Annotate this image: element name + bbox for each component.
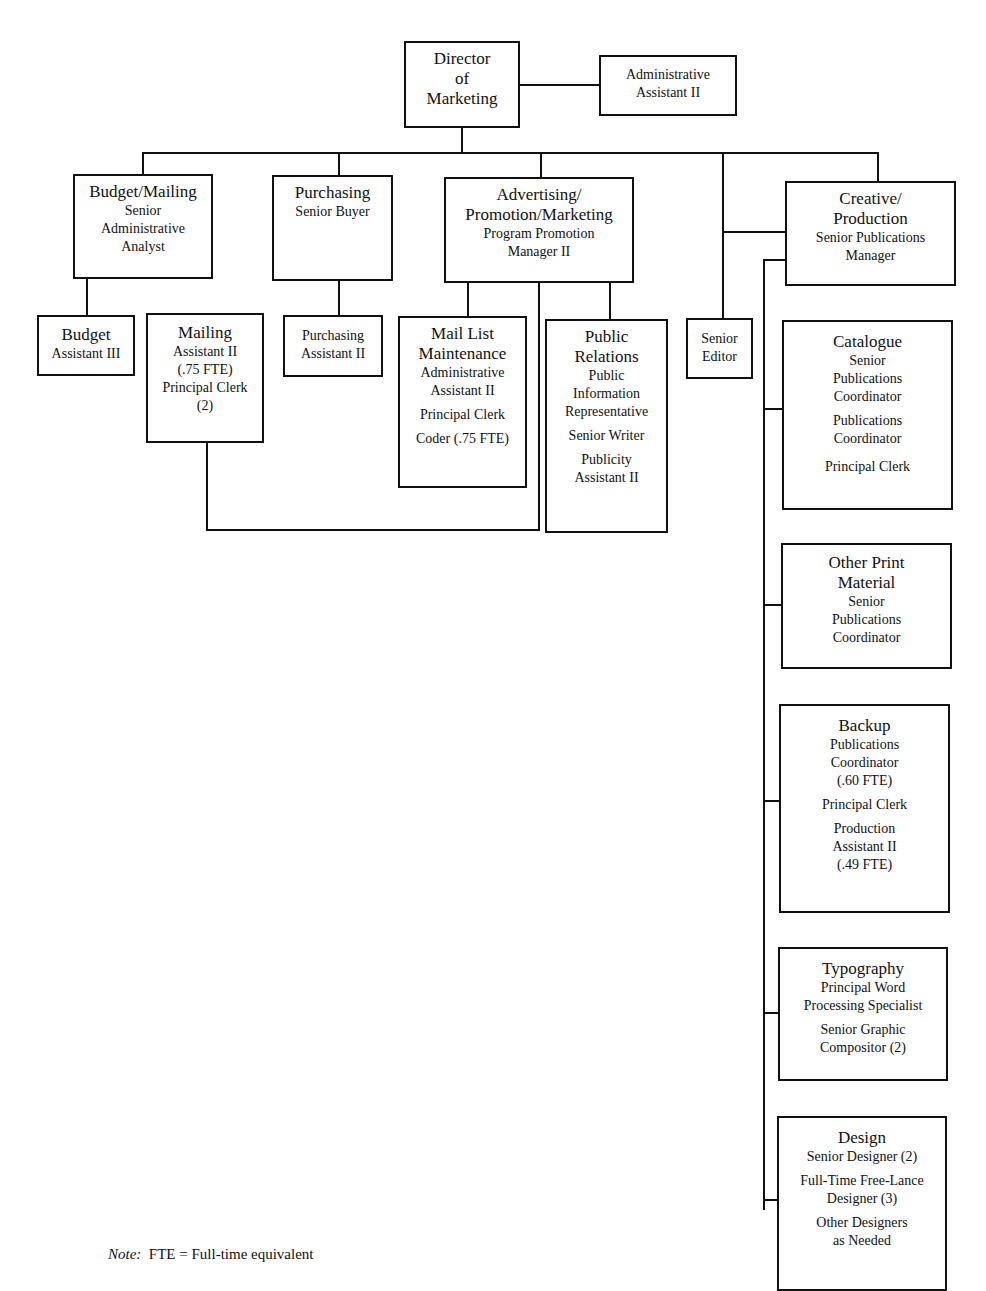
box-line: Senior Buyer [295, 203, 369, 221]
box-title: Maintenance [419, 344, 507, 364]
connector [763, 1199, 778, 1201]
box-title: Typography [822, 959, 904, 979]
box-title: Relations [574, 347, 638, 367]
box-line: Assistant II [301, 345, 365, 363]
box-line: Analyst [121, 238, 165, 256]
box-title: Design [838, 1128, 886, 1148]
typography-box: Typography Principal Word Processing Spe… [778, 947, 948, 1081]
box-line: Assistant II [430, 382, 494, 400]
box-line: Information [573, 385, 640, 403]
box-line: Senior [848, 593, 885, 611]
box-line: Publications [833, 370, 902, 388]
box-title: Other Print [828, 553, 904, 573]
box-line: Coordinator [831, 754, 899, 772]
budget-mailing-box: Budget/Mailing Senior Administrative Ana… [73, 174, 213, 279]
connector [609, 282, 611, 319]
box-line: Assistant II [173, 343, 237, 361]
box-title: Production [833, 209, 908, 229]
box-line: Senior Designer (2) [807, 1148, 917, 1166]
connector [142, 152, 879, 154]
box-line: Principal Clerk [420, 406, 505, 424]
box-line: Processing Specialist [804, 997, 923, 1015]
connector [86, 278, 88, 315]
box-line: Coordinator [834, 388, 902, 406]
box-line: Publications [830, 736, 899, 754]
connector [461, 127, 463, 154]
box-line: Manager [846, 247, 896, 265]
connector [519, 84, 599, 86]
box-line: Principal Word [821, 979, 906, 997]
box-title: Mailing [178, 323, 232, 343]
box-title: Creative/ [839, 189, 901, 209]
connector [763, 800, 780, 802]
connector [877, 152, 879, 181]
box-title: Budget/Mailing [89, 182, 197, 202]
connector [206, 443, 208, 531]
connector [722, 152, 724, 318]
mailing-box: Mailing Assistant II (.75 FTE) Principal… [146, 313, 264, 443]
box-line: Publications [832, 611, 901, 629]
box-line: Compositor (2) [820, 1039, 906, 1057]
box-line: Manager II [508, 243, 571, 261]
box-line: Editor [702, 348, 737, 366]
connector [763, 259, 765, 1210]
box-line: Assistant III [52, 345, 121, 363]
catalogue-box: Catalogue Senior Publications Coordinato… [782, 320, 953, 510]
box-line: Full-Time Free-Lance [800, 1172, 924, 1190]
box-title: of [455, 69, 469, 89]
box-line: Assistant II [636, 84, 700, 102]
mail-list-maintenance-box: Mail List Maintenance Administrative Ass… [398, 316, 527, 488]
connector [763, 408, 782, 410]
design-box: Design Senior Designer (2) Full-Time Fre… [777, 1116, 947, 1291]
box-title: Promotion/Marketing [465, 205, 612, 225]
box-line: Publications [833, 412, 902, 430]
box-line: as Needed [833, 1232, 891, 1250]
box-line: Principal Clerk [162, 379, 247, 397]
box-line: Administrative [101, 220, 185, 238]
advertising-box: Advertising/ Promotion/Marketing Program… [444, 177, 634, 283]
creative-production-box: Creative/ Production Senior Publications… [785, 181, 956, 286]
box-line: Senior Writer [569, 427, 645, 445]
connector [467, 282, 469, 316]
box-line: Senior [125, 202, 162, 220]
box-line: Purchasing [302, 327, 364, 345]
box-line: Coder (.75 FTE) [416, 430, 509, 448]
other-print-material-box: Other Print Material Senior Publications… [781, 543, 952, 669]
box-line: Assistant II [832, 838, 896, 856]
box-line: Production [834, 820, 895, 838]
box-title: Purchasing [295, 183, 371, 203]
director-of-marketing-box: Director of Marketing [404, 41, 520, 128]
box-line: Senior Publications [816, 229, 925, 247]
box-line: Other Designers [816, 1214, 907, 1232]
box-line: Program Promotion [484, 225, 595, 243]
box-title: Director [434, 49, 491, 69]
note-label: Note: [108, 1246, 141, 1262]
box-line: Senior [849, 352, 886, 370]
connector [540, 152, 542, 177]
box-title: Marketing [427, 89, 498, 109]
box-line: Coordinator [833, 629, 901, 647]
box-line: (2) [197, 397, 213, 415]
box-title: Catalogue [833, 332, 902, 352]
box-line: Principal Clerk [825, 458, 910, 476]
purchasing-assistant-box: Purchasing Assistant II [283, 315, 383, 377]
senior-editor-box: Senior Editor [686, 318, 753, 379]
connector [338, 152, 340, 175]
box-line: (.60 FTE) [837, 772, 892, 790]
box-line: Representative [565, 403, 648, 421]
footnote: Note: FTE = Full-time equivalent [108, 1246, 314, 1263]
budget-box: Budget Assistant III [37, 315, 135, 376]
box-line: Senior [701, 330, 738, 348]
connector [763, 259, 785, 261]
connector [722, 231, 785, 233]
box-line: Designer (3) [827, 1190, 897, 1208]
connector [763, 604, 782, 606]
box-line: Administrative [626, 66, 710, 84]
purchasing-box: Purchasing Senior Buyer [272, 175, 393, 281]
box-title: Mail List [431, 324, 494, 344]
box-title: Public [585, 327, 628, 347]
box-line: Administrative [421, 364, 505, 382]
box-title: Material [838, 573, 896, 593]
box-line: Senior Graphic [820, 1021, 905, 1039]
box-line: (.49 FTE) [837, 856, 892, 874]
